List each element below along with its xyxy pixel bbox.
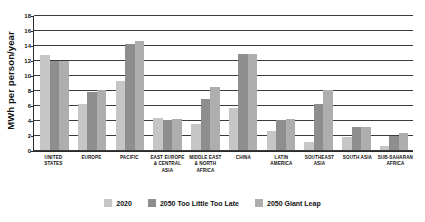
y-axis-tick-label: 14 [24,43,31,49]
y-axis-tick-label: 0 [28,148,31,154]
x-axis-category-label: SOUTH ASIA [338,155,376,174]
legend-label: 2050 Giant Leap [267,200,321,207]
y-axis-tickmark [31,151,34,152]
x-axis-category-label: MIDDLE EAST & NORTH AFRICA [186,155,224,174]
bar-group [262,16,300,150]
bar-group [35,16,73,150]
legend-label: 2050 Too Little Too Late [160,200,239,207]
bar [172,119,182,149]
bar [87,92,97,150]
bar [352,127,362,150]
bar-group [375,16,413,150]
y-axis-tickmark [31,16,34,17]
chart-legend: 20202050 Too Little Too Late2050 Giant L… [0,199,425,207]
bar-group [186,16,224,150]
bar [304,142,314,149]
bar [286,119,296,149]
y-axis-tick-label: 8 [28,88,31,94]
bar [238,54,248,150]
bar [116,81,126,149]
y-axis-tickmark [31,91,34,92]
y-axis-tickmark [31,31,34,32]
y-axis-tickmark [31,46,34,47]
chart-figure: MWh per person/year 024681012141618 UNIT… [0,0,425,222]
y-axis-tick-label: 4 [28,118,31,124]
y-axis-title: MWh per person/year [0,0,20,160]
y-axis-tickmark [31,106,34,107]
bar [267,131,277,150]
bar [40,55,50,149]
y-axis-tick-label: 2 [28,133,31,139]
bar [191,124,201,149]
bar-group [338,16,376,150]
y-axis-tickmark [31,61,34,62]
legend-swatch-icon [148,199,156,207]
bar [248,54,258,150]
y-axis-tick-label: 6 [28,103,31,109]
y-axis-tickmark [31,76,34,77]
bar [153,118,163,149]
y-axis-tick-label: 16 [24,28,31,34]
x-axis-category-label: CHINA [224,155,262,174]
bar [342,137,352,150]
x-axis-category-label: LATIN AMERICA [262,155,300,174]
bar [276,120,286,150]
bar-group [149,16,187,150]
bar [229,108,239,150]
y-axis-tick-label: 10 [24,73,31,79]
bar [323,90,333,150]
x-axis-category-label: UNITED STATES [34,155,72,174]
y-axis-tickmark [31,136,34,137]
legend-item[interactable]: 2050 Giant Leap [255,199,321,207]
bar-group [111,16,149,150]
bar [314,104,324,149]
bar-group [73,16,111,150]
bar [210,87,220,149]
bar [135,41,145,149]
legend-item[interactable]: 2020 [104,199,132,207]
bar [50,61,60,150]
legend-item[interactable]: 2050 Too Little Too Late [148,199,239,207]
legend-swatch-icon [255,199,263,207]
y-axis-tick-label: 18 [24,13,31,19]
bar [125,44,135,149]
gridline: 0 [34,150,413,151]
bar [78,104,88,150]
y-axis-tick-label: 12 [24,58,31,64]
plot-axes: 024681012141618 [33,16,413,152]
y-axis-tickmark [31,121,34,122]
bar [389,136,399,150]
plot-area: 024681012141618 [33,16,413,152]
legend-label: 2020 [116,200,132,207]
bar-group [300,16,338,150]
x-axis-category-label: SUB-SAHARAN AFRICA [376,155,414,174]
bar-group [224,16,262,150]
bar [163,120,173,150]
legend-swatch-icon [104,199,112,207]
x-axis-category-label: SOUTHEAST ASIA [300,155,338,174]
bar [399,133,409,149]
x-axis-category-label: EUROPE [72,155,110,174]
y-axis-title-text: MWh per person/year [5,31,16,130]
x-axis-category-labels: UNITED STATESEUROPEPACIFICEAST EUROPE & … [34,155,414,174]
x-axis-category-label: PACIFIC [110,155,148,174]
bar [59,61,69,150]
bar [201,99,211,149]
bar [380,146,390,150]
bar [97,90,107,149]
bar [361,127,371,150]
x-axis-category-label: EAST EUROPE & CENTRAL ASIA [148,155,186,174]
bar-groups [35,16,413,150]
